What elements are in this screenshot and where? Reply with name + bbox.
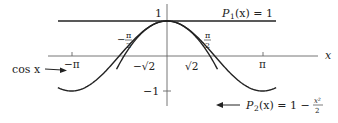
taylor-approximation-figure: 1 −1 x −π π − π 2 π 2 −√2 √2 P 1 (x) = 1… <box>0 0 338 123</box>
p2-label: P 2 (x) = 1 − x² 2 <box>245 97 323 115</box>
cos-label: cos x <box>12 63 41 76</box>
p1-label: P 1 (x) = 1 <box>221 7 273 21</box>
annotation-sqrt2: √2 <box>185 60 198 72</box>
plot-canvas: 1 −1 x −π π − π 2 π 2 −√2 √2 P 1 (x) = 1… <box>0 0 338 123</box>
svg-text:(x) = 1: (x) = 1 <box>235 7 273 20</box>
p2-arrow-head <box>216 102 223 108</box>
annotation-neg-half-pi: − π 2 <box>117 31 132 50</box>
svg-text:x²: x² <box>314 97 321 105</box>
svg-text:−: − <box>117 34 125 45</box>
svg-text:2: 2 <box>205 41 210 50</box>
svg-text:π: π <box>205 31 210 40</box>
x-tick-label-neg-pi: −π <box>64 58 80 70</box>
x-tick-label-pi: π <box>259 58 266 70</box>
annotation-half-pi: π 2 <box>204 31 211 50</box>
cos-arrow <box>45 69 62 70</box>
annotation-neg-sqrt2: −√2 <box>133 60 155 72</box>
svg-text:P: P <box>221 7 230 20</box>
svg-text:π: π <box>126 31 131 40</box>
svg-text:P: P <box>245 99 254 112</box>
svg-text:2: 2 <box>315 107 319 115</box>
y-tick-label-one: 1 <box>155 7 162 20</box>
svg-text:(x) = 1 −: (x) = 1 − <box>259 99 310 112</box>
svg-text:2: 2 <box>126 41 131 50</box>
x-axis-label: x <box>325 49 332 62</box>
y-tick-label-neg-one: −1 <box>143 85 159 98</box>
